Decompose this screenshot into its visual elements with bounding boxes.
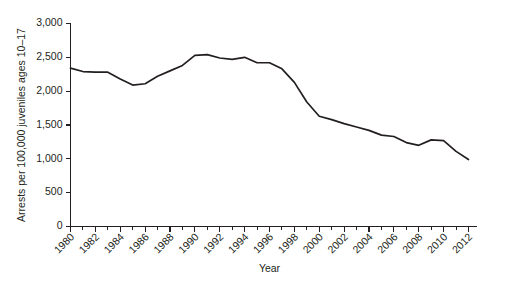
- x-tick-label: 1984: [101, 230, 126, 255]
- x-axis-major-ticks: [71, 227, 469, 233]
- x-tick-label: 1996: [250, 230, 275, 255]
- x-tick-label: 1990: [176, 230, 201, 255]
- x-tick-label: 2012: [449, 230, 474, 255]
- y-axis-tick-labels: 05001,0001,5002,0002,5003,000: [36, 16, 62, 231]
- x-tick-label: 1982: [76, 230, 101, 255]
- data-series-line: [71, 55, 469, 160]
- y-tick-label: 3,000: [36, 16, 62, 28]
- y-axis-ticks: [66, 24, 71, 227]
- x-axis-tick-labels: 1980198219841986198819901992199419961998…: [51, 230, 474, 255]
- y-tick-label: 1,500: [36, 118, 62, 130]
- x-tick-label: 2010: [425, 230, 450, 255]
- y-tick-label: 500: [45, 185, 63, 197]
- x-tick-label: 1986: [126, 230, 151, 255]
- y-tick-label: 2,500: [36, 50, 62, 62]
- x-tick-label: 1992: [201, 230, 226, 255]
- y-tick-label: 0: [57, 219, 63, 231]
- y-tick-label: 2,000: [36, 84, 62, 96]
- chart-container: 05001,0001,5002,0002,5003,000 1980198219…: [0, 0, 509, 285]
- x-tick-label: 1994: [226, 230, 251, 255]
- y-axis-title: Arrests per 100,000 juveniles ages 10–17: [15, 28, 27, 222]
- x-tick-label: 1998: [275, 230, 300, 255]
- y-tick-label: 1,000: [36, 152, 62, 164]
- x-tick-label: 1988: [151, 230, 176, 255]
- x-tick-label: 2008: [400, 230, 425, 255]
- line-chart: 05001,0001,5002,0002,5003,000 1980198219…: [0, 0, 509, 285]
- x-tick-label: 2006: [375, 230, 400, 255]
- x-tick-label: 2004: [350, 230, 375, 255]
- x-tick-label: 1980: [51, 230, 76, 255]
- x-axis-title: Year: [259, 262, 281, 274]
- x-tick-label: 2000: [300, 230, 325, 255]
- x-tick-label: 2002: [325, 230, 350, 255]
